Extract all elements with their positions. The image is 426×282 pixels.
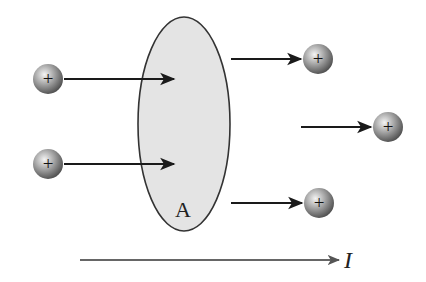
positive-charge-left-top: + (33, 64, 63, 94)
plus-icon: + (43, 68, 54, 89)
plus-icon: + (383, 116, 394, 137)
area-label: A (175, 197, 191, 222)
positive-charge-right-middle: + (373, 112, 403, 142)
positive-charge-right-bottom: + (304, 188, 334, 218)
current-label: I (343, 247, 353, 273)
positive-charge-left-bottom: + (33, 149, 63, 179)
current-diagram: + + + + + A I (0, 0, 426, 282)
plus-icon: + (314, 192, 325, 213)
plus-icon: + (313, 48, 324, 69)
positive-charge-right-top: + (303, 44, 333, 74)
plus-icon: + (43, 153, 54, 174)
